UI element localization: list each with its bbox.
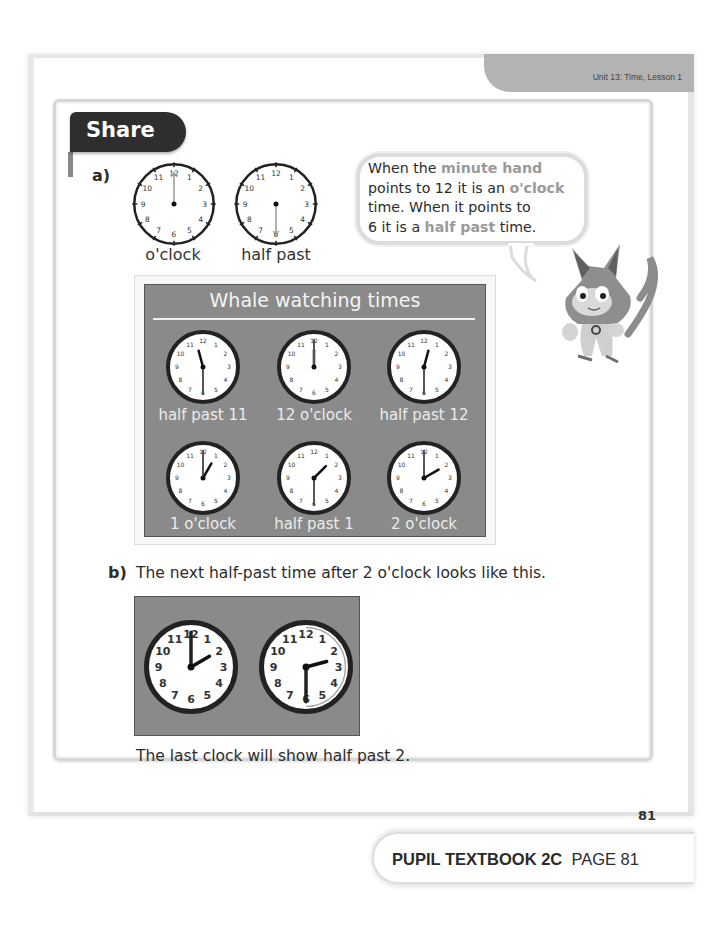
example-clock-half-past: 123456789101112 — [234, 162, 318, 246]
svg-text:10: 10 — [398, 461, 406, 468]
svg-text:4: 4 — [224, 376, 228, 383]
svg-text:4: 4 — [330, 677, 338, 690]
svg-text:1: 1 — [203, 633, 211, 646]
svg-text:12: 12 — [271, 169, 281, 178]
share-section-tab: Share — [70, 112, 186, 152]
svg-text:9: 9 — [286, 474, 290, 481]
whale-watching-board: Whale watching times 123456789101112 123… — [144, 284, 486, 537]
svg-text:2: 2 — [224, 350, 228, 357]
svg-text:2: 2 — [330, 645, 338, 658]
svg-text:8: 8 — [179, 487, 183, 494]
caption-half-past-11: half past 11 — [148, 406, 258, 424]
highlight-half-past: half past — [425, 219, 496, 235]
svg-text:8: 8 — [290, 487, 294, 494]
svg-text:5: 5 — [187, 226, 192, 235]
svg-text:3: 3 — [335, 661, 343, 674]
svg-text:2: 2 — [198, 184, 203, 193]
svg-text:7: 7 — [188, 497, 192, 504]
speech-text: time. When it points to — [368, 198, 598, 218]
svg-text:5: 5 — [289, 226, 294, 235]
svg-text:7: 7 — [409, 497, 413, 504]
clock-2-oclock-b: 123456789101112 — [143, 619, 239, 715]
svg-text:8: 8 — [290, 376, 294, 383]
whale-board-title: Whale watching times — [145, 289, 485, 311]
svg-text:5: 5 — [325, 386, 329, 393]
svg-text:9: 9 — [270, 661, 278, 674]
clock-12-oclock: 123456789101112 — [276, 329, 352, 405]
svg-text:1: 1 — [435, 341, 439, 348]
caption-oclock: o'clock — [130, 245, 216, 264]
caption-12-oclock: 12 o'clock — [259, 406, 369, 424]
svg-text:2: 2 — [335, 461, 339, 468]
svg-text:6: 6 — [187, 693, 195, 706]
svg-text:11: 11 — [282, 633, 297, 646]
svg-text:1: 1 — [187, 173, 192, 182]
svg-text:8: 8 — [274, 677, 282, 690]
svg-text:10: 10 — [177, 461, 185, 468]
svg-text:8: 8 — [247, 215, 252, 224]
clock-half-past-11: 123456789101112 — [165, 329, 241, 405]
svg-text:4: 4 — [300, 215, 305, 224]
svg-text:7: 7 — [299, 386, 303, 393]
svg-text:7: 7 — [171, 689, 179, 702]
highlight-oclock: o'clock — [509, 180, 564, 196]
svg-text:1: 1 — [325, 452, 329, 459]
caption-1-oclock: 1 o'clock — [148, 515, 258, 533]
svg-text:3: 3 — [220, 661, 228, 674]
clock-half-past-2-b: 123456789101112 — [258, 619, 354, 715]
svg-text:8: 8 — [400, 376, 404, 383]
svg-text:2: 2 — [300, 184, 305, 193]
svg-text:6: 6 — [312, 389, 316, 396]
svg-text:1: 1 — [214, 452, 218, 459]
clock-half-past-12: 123456789101112 — [386, 329, 462, 405]
speech-text: time. — [495, 219, 536, 235]
svg-text:10: 10 — [288, 461, 296, 468]
svg-text:8: 8 — [400, 487, 404, 494]
svg-text:5: 5 — [435, 386, 439, 393]
svg-text:5: 5 — [435, 497, 439, 504]
share-tab-stem — [68, 152, 73, 177]
svg-text:7: 7 — [188, 386, 192, 393]
svg-text:3: 3 — [304, 200, 309, 209]
svg-text:9: 9 — [396, 363, 400, 370]
svg-text:5: 5 — [214, 386, 218, 393]
svg-text:9: 9 — [286, 363, 290, 370]
svg-text:5: 5 — [214, 497, 218, 504]
svg-text:1: 1 — [435, 452, 439, 459]
speech-text: 6 it is a — [368, 219, 425, 235]
svg-text:12: 12 — [310, 448, 318, 455]
svg-text:11: 11 — [297, 341, 305, 348]
svg-text:11: 11 — [154, 173, 164, 182]
svg-text:2: 2 — [335, 350, 339, 357]
clock-half-past-1: 123456789101112 — [276, 440, 352, 516]
clock-1-oclock: 123456789101112 — [165, 440, 241, 516]
svg-text:4: 4 — [224, 487, 228, 494]
svg-text:7: 7 — [286, 689, 294, 702]
svg-text:6: 6 — [172, 230, 177, 239]
svg-text:10: 10 — [155, 645, 171, 658]
svg-text:6: 6 — [422, 500, 426, 507]
unit-tab: Unit 13: Time, Lesson 1 — [484, 54, 694, 92]
svg-text:11: 11 — [297, 452, 305, 459]
svg-text:4: 4 — [335, 376, 339, 383]
title-underline — [153, 318, 475, 320]
part-b-clock-panel: 123456789101112 123456789101112 — [134, 596, 360, 736]
highlight-minute-hand: minute hand — [441, 160, 542, 176]
svg-text:7: 7 — [299, 497, 303, 504]
svg-text:5: 5 — [325, 497, 329, 504]
svg-text:3: 3 — [448, 363, 452, 370]
svg-text:9: 9 — [396, 474, 400, 481]
svg-text:9: 9 — [175, 474, 179, 481]
svg-text:9: 9 — [175, 363, 179, 370]
caption-half-past-12: half past 12 — [369, 406, 479, 424]
svg-text:10: 10 — [245, 184, 255, 193]
part-b-prompt: The next half-past time after 2 o'clock … — [136, 564, 546, 582]
svg-text:10: 10 — [398, 350, 406, 357]
speech-text: When the — [368, 160, 441, 176]
share-section-title: Share — [86, 118, 155, 142]
caption-half-past: half past — [230, 245, 322, 264]
unit-label: Unit 13: Time, Lesson 1 — [593, 72, 682, 82]
svg-text:11: 11 — [167, 633, 182, 646]
svg-text:8: 8 — [179, 376, 183, 383]
svg-text:12: 12 — [199, 337, 207, 344]
